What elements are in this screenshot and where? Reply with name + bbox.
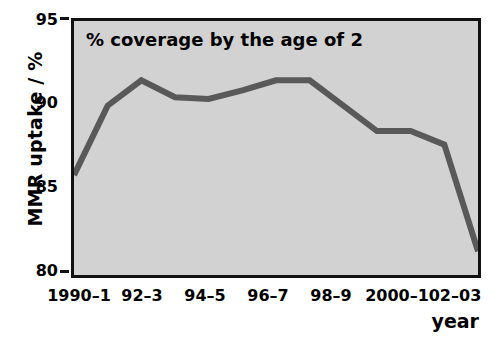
- data-series-line: [74, 80, 478, 251]
- y-axis-tick-label-95: 95: [18, 10, 58, 29]
- x-axis-tick-label-02-03: 02–03: [429, 286, 482, 305]
- y-axis-title: MMR uptake / %: [24, 44, 46, 234]
- y-axis-tick-mark-80: [60, 270, 69, 273]
- x-axis-tick-label-2000-1: 2000–1: [365, 286, 429, 305]
- plot-inner: % coverage by the age of 2: [74, 21, 478, 275]
- x-axis-tick-label-96-7: 96–7: [247, 286, 288, 305]
- data-line-svg: [74, 21, 478, 275]
- y-axis-tick-mark-95: [60, 17, 69, 20]
- plot-area: % coverage by the age of 2: [71, 18, 481, 278]
- x-axis-tick-label-94-5: 94–5: [184, 286, 225, 305]
- y-axis-tick-label-90: 90: [18, 93, 58, 112]
- y-axis-tick-label-85: 85: [18, 177, 58, 196]
- y-axis-tick-label-80: 80: [18, 261, 58, 280]
- mmr-uptake-line-chart: MMR uptake / % 95 90 85 80 % coverage by…: [0, 0, 493, 337]
- x-axis-tick-label-92-3: 92–3: [121, 286, 162, 305]
- plot-title: % coverage by the age of 2: [86, 29, 363, 50]
- x-axis-title: year: [432, 310, 479, 332]
- x-axis-tick-label-98-9: 98–9: [310, 286, 351, 305]
- x-axis-tick-label-1990-1: 1990–1: [47, 286, 111, 305]
